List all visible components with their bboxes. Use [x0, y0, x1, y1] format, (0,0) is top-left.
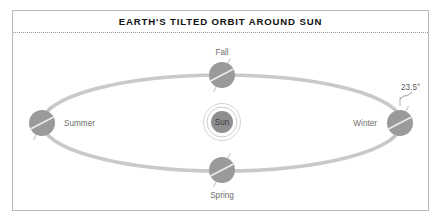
earth-summer: [29, 106, 55, 140]
earth-spring-label: Spring: [210, 191, 234, 200]
tilt-leader-line: [408, 92, 413, 96]
tilt-arc: [400, 95, 408, 99]
earth-fall: [209, 58, 235, 92]
tilt-angle-indicator: [400, 92, 412, 106]
sun-body: Sun: [204, 104, 241, 141]
earth-winter-label: Winter: [353, 119, 377, 128]
earth-spring: [209, 153, 235, 187]
sun-label: Sun: [215, 118, 230, 127]
earth-winter: [387, 106, 413, 140]
earth-orbit-diagram: EARTH'S TILTED ORBIT AROUND SUN Sun Fall…: [0, 0, 443, 223]
tilt-angle-label: 23.5°: [401, 83, 420, 92]
earth-summer-label: Summer: [64, 119, 95, 128]
diagram-canvas: Sun Fall Spring Summer Winter: [0, 0, 443, 223]
earth-fall-label: Fall: [215, 48, 228, 57]
